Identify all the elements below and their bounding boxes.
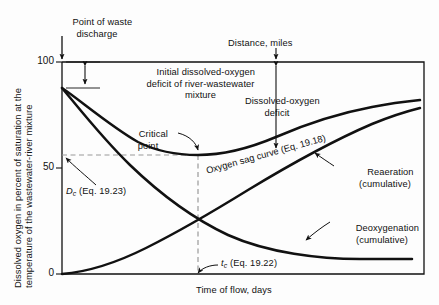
y-tick-100: 100 <box>22 55 54 66</box>
tc-leader <box>198 265 218 273</box>
reaeration-leader <box>315 153 334 166</box>
oxygen-sag-diagram: Point of waste discharge Initial dissolv… <box>0 0 439 305</box>
y-axis-title-line2: temperature of the wastewater-river mixt… <box>23 105 34 288</box>
distance-miles-label: Distance, miles <box>228 38 293 49</box>
dc-label: Dc (Eq. 19.23) <box>66 186 126 199</box>
deoxygenation-label: Deoxygenation (cumulative) <box>330 212 434 258</box>
critical-point-leader <box>178 133 198 150</box>
deoxygenation-leader <box>306 222 330 240</box>
x-axis-title: Time of flow, days <box>196 285 272 296</box>
initial-deficit-arrow <box>66 62 100 88</box>
tc-label: tc (Eq. 19.22) <box>221 258 277 271</box>
reaeration-label: Reaeration (cumulative) <box>338 156 432 202</box>
dc-leader <box>66 158 96 185</box>
critical-point-label: Critical point <box>117 118 179 164</box>
do-deficit-label: Dissolved-oxygen deficit <box>222 85 332 131</box>
y-axis-title-line1: Dissolved oxygen in percent of saturatio… <box>12 88 23 288</box>
waste-discharge-label: Point of waste discharge <box>37 6 157 52</box>
y-axis-ticks <box>56 62 62 274</box>
